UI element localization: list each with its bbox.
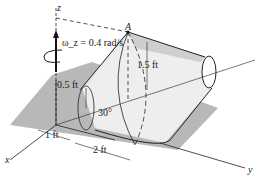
z-axis-label: z [57,3,61,13]
large-radius-label: 1.5 ft [137,60,158,70]
x-offset-label: 1 ft [45,130,59,140]
small-radius-label: 0.5 ft [57,80,78,90]
y-axis-label: y [248,165,252,175]
x-axis-label: x [5,155,9,165]
half-angle-label: 30° [98,108,112,118]
cone-diagram [0,0,264,188]
rotation-arrow-icon [44,50,62,62]
point-a-label: A [125,22,131,32]
angular-velocity-label: ω_z = 0.4 rad/s [62,38,123,48]
y-offset-label: 2 ft [93,145,107,155]
end-ellipse [202,56,216,88]
